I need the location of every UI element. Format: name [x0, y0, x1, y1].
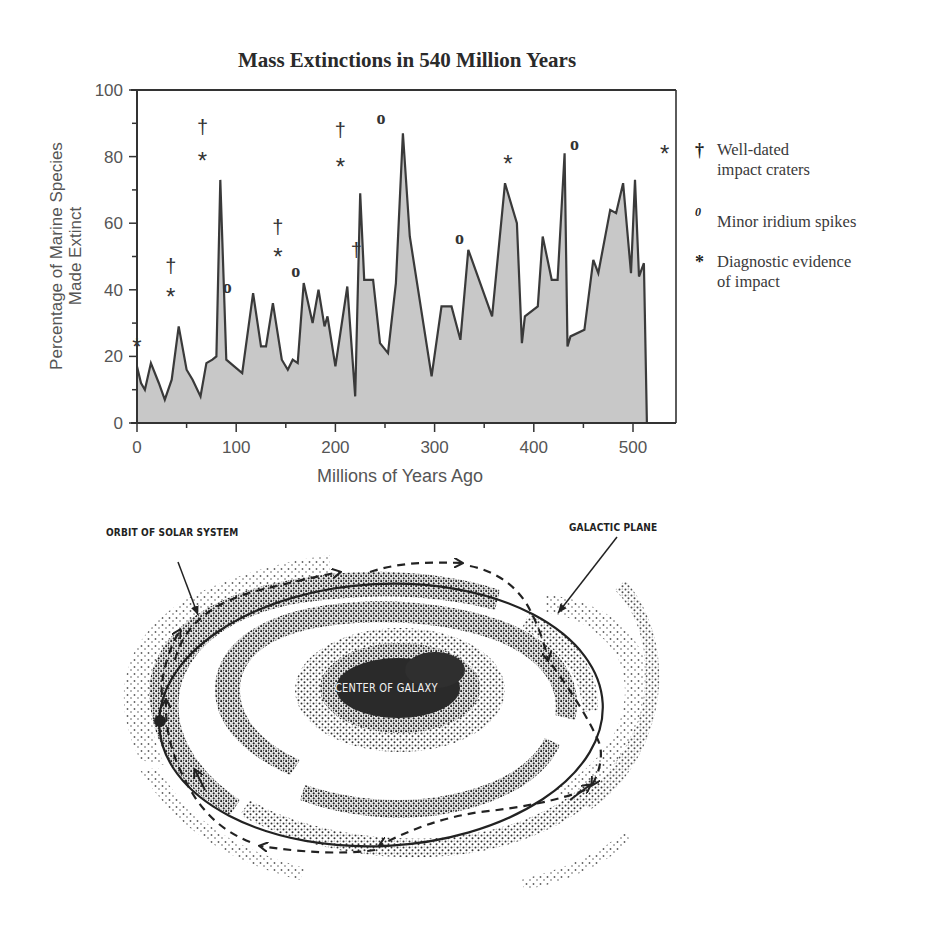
galactic-plane-label: GALACTIC PLANE	[569, 521, 657, 534]
solar-system-position-dot	[154, 715, 166, 727]
galaxy-center-label: CENTER OF GALAXY	[335, 681, 438, 695]
galactic-plane-pointer-arrow	[558, 537, 617, 613]
galaxy-orbit-diagram	[0, 0, 942, 926]
orbit-label: ORBIT OF SOLAR SYSTEM	[106, 526, 238, 539]
oscillation-path-segment	[370, 563, 462, 572]
